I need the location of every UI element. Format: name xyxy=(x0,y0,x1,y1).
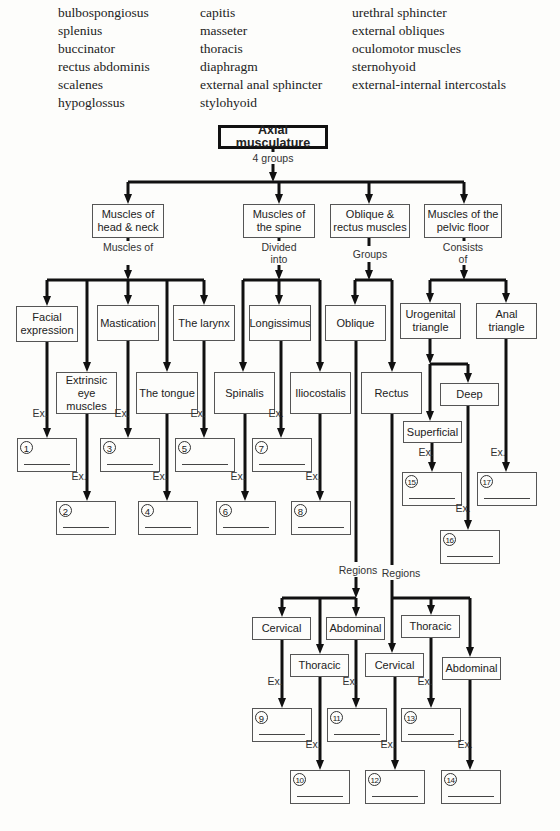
answer-number-badge: 16 xyxy=(443,533,456,546)
answer-blank-line[interactable] xyxy=(145,527,191,528)
answer-blank-line[interactable] xyxy=(182,464,228,465)
arrow-head xyxy=(388,362,396,372)
label-example: Ex. xyxy=(228,470,248,482)
arrow-head xyxy=(426,293,434,303)
arrow-head xyxy=(275,295,283,305)
answer-box-12[interactable]: 12 xyxy=(365,770,425,804)
arrow-head xyxy=(83,491,91,501)
arrow-head xyxy=(275,194,283,204)
label-example: Ex. xyxy=(340,675,360,687)
answer-box-8[interactable]: 8 xyxy=(291,501,351,535)
answer-box-2[interactable]: 2 xyxy=(56,501,116,535)
label-regions-rectus: Regions xyxy=(379,567,423,579)
answer-box-3[interactable]: 3 xyxy=(100,438,160,472)
arrow-head xyxy=(239,362,247,372)
label-example: Ex. xyxy=(303,738,323,750)
answer-blank-line[interactable] xyxy=(372,796,418,797)
answer-box-14[interactable]: 14 xyxy=(441,770,501,804)
arrow-head xyxy=(466,760,474,770)
arrow-head xyxy=(241,491,249,501)
answer-number-badge: 13 xyxy=(404,711,417,724)
node-urogenital-triangle: Urogenital triangle xyxy=(400,303,461,339)
answer-box-4[interactable]: 4 xyxy=(138,501,198,535)
arrow-head xyxy=(427,698,435,708)
answer-number-badge: 4 xyxy=(141,504,154,517)
group-pelvic-floor: Muscles of the pelvic floor xyxy=(424,204,502,238)
label-consists-of: Consists of xyxy=(438,241,488,265)
arrow-head xyxy=(352,698,360,708)
answer-blank-line[interactable] xyxy=(484,498,530,499)
arrow-head xyxy=(502,462,510,472)
answer-number-badge: 9 xyxy=(255,711,268,724)
arrow-head xyxy=(278,698,286,708)
arrow-head xyxy=(316,760,324,770)
arrow-head xyxy=(316,644,324,654)
answer-box-16[interactable]: 16 xyxy=(440,530,500,564)
node-mastication: Mastication xyxy=(97,305,159,341)
label-example: Ex. xyxy=(453,502,473,514)
arrow-head xyxy=(278,607,286,617)
answer-number-badge: 12 xyxy=(368,773,381,786)
answer-box-13[interactable]: 13 xyxy=(401,708,461,742)
arrow-head xyxy=(83,362,91,372)
node-longissimus: Longissimus xyxy=(249,305,311,341)
answer-blank-line[interactable] xyxy=(298,527,344,528)
answer-box-5[interactable]: 5 xyxy=(175,438,235,472)
node-rectus: Rectus xyxy=(361,372,422,414)
answer-number-badge: 11 xyxy=(330,711,343,724)
label-example: Ex. xyxy=(415,675,435,687)
node-extrinsic-eye-muscles: Extrinsic eye muscles xyxy=(56,372,117,414)
node-superficial: Superficial xyxy=(403,421,462,443)
answer-blank-line[interactable] xyxy=(408,734,454,735)
answer-box-7[interactable]: 7 xyxy=(252,438,312,472)
answer-box-9[interactable]: 9 xyxy=(252,708,312,742)
label-example: Ex. xyxy=(69,470,89,482)
arrow-head xyxy=(460,194,468,204)
answer-blank-line[interactable] xyxy=(448,796,494,797)
arrow-head xyxy=(316,491,324,501)
answer-blank-line[interactable] xyxy=(409,498,455,499)
label-example: Ex. xyxy=(265,675,285,687)
arrow-head xyxy=(124,428,132,438)
answer-blank-line[interactable] xyxy=(259,734,305,735)
answer-box-6[interactable]: 6 xyxy=(216,501,276,535)
answer-box-1[interactable]: 1 xyxy=(17,438,77,472)
answer-box-15[interactable]: 15 xyxy=(402,472,462,506)
answer-number-badge: 10 xyxy=(293,773,306,786)
arrow-head xyxy=(427,605,435,615)
answer-blank-line[interactable] xyxy=(24,464,70,465)
answer-blank-line[interactable] xyxy=(297,796,343,797)
answer-blank-line[interactable] xyxy=(447,556,493,557)
answer-blank-line[interactable] xyxy=(223,527,269,528)
answer-blank-line[interactable] xyxy=(107,464,153,465)
group-spine: Muscles of the spine xyxy=(243,204,315,238)
arrow-head xyxy=(124,194,132,204)
answer-blank-line[interactable] xyxy=(259,464,305,465)
answer-blank-line[interactable] xyxy=(334,734,380,735)
answer-blank-line[interactable] xyxy=(63,527,109,528)
node-rectus-abdominal: Abdominal xyxy=(442,657,501,680)
label-example: Ex. xyxy=(303,470,323,482)
arrow-head xyxy=(163,491,171,501)
label-regions-oblique: Regions xyxy=(336,564,380,576)
arrow-head xyxy=(277,428,285,438)
answer-box-11[interactable]: 11 xyxy=(327,708,387,742)
answer-box-10[interactable]: 10 xyxy=(290,770,350,804)
arrow-head xyxy=(464,520,472,530)
arrow-head xyxy=(200,295,208,305)
arrow-head xyxy=(163,362,171,372)
label-divided-into: Divided into xyxy=(254,241,304,265)
arrow-head xyxy=(391,760,399,770)
group-oblique-rectus: Oblique & rectus muscles xyxy=(330,204,410,238)
arrow-head xyxy=(124,295,132,305)
label-example: Ex. xyxy=(488,446,508,458)
answer-number-badge: 2 xyxy=(59,504,72,517)
answer-number-badge: 3 xyxy=(103,441,116,454)
node-oblique-cervical: Cervical xyxy=(252,617,311,640)
arrow-head xyxy=(388,643,396,653)
answer-number-badge: 1 xyxy=(20,441,33,454)
label-example: Ex. xyxy=(266,407,286,419)
node-rectus-cervical: Cervical xyxy=(365,653,424,677)
node-oblique-abdominal: Abdominal xyxy=(326,617,385,640)
answer-box-17[interactable]: 17 xyxy=(477,472,537,506)
